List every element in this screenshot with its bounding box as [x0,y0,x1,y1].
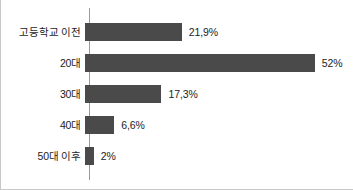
table-row: 30대 17,3% [1,85,353,103]
bar-4 [85,147,94,165]
category-label-4: 50대 이후 [1,151,85,162]
bar-track-1: 52% [85,54,353,72]
bar-chart: 고등학교 이전 21,9% 20대 52% 30대 17,3% 40대 [0,0,353,190]
bar-0 [85,23,182,41]
value-label-0: 21,9% [182,27,218,38]
category-label-1: 20대 [1,58,85,69]
bar-2 [85,85,161,103]
table-row: 20대 52% [1,54,353,72]
category-label-2: 30대 [1,89,85,100]
category-label-0: 고등학교 이전 [1,27,85,38]
table-row: 고등학교 이전 21,9% [1,23,353,41]
table-row: 40대 6,6% [1,116,353,134]
value-label-3: 6,6% [114,120,145,131]
bar-track-4: 2% [85,147,353,165]
bar-3 [85,116,114,134]
bar-track-0: 21,9% [85,23,353,41]
category-label-3: 40대 [1,120,85,131]
value-label-4: 2% [94,151,116,162]
bar-track-3: 6,6% [85,116,353,134]
bar-track-2: 17,3% [85,85,353,103]
value-label-2: 17,3% [161,89,197,100]
table-row: 50대 이후 2% [1,147,353,165]
value-label-1: 52% [315,58,343,69]
plot-area: 고등학교 이전 21,9% 20대 52% 30대 17,3% 40대 [1,0,353,189]
bar-1 [85,54,315,72]
